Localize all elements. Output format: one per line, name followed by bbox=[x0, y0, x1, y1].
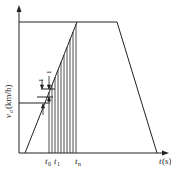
svg-text:0: 0 bbox=[48, 161, 51, 167]
velocity-profile bbox=[19, 22, 157, 153]
y-axis-arrow-icon bbox=[17, 5, 22, 12]
tick-label-t1: t 1 bbox=[54, 156, 60, 167]
svg-text:(s): (s) bbox=[162, 156, 171, 166]
step-marker-label: 1 bbox=[45, 70, 53, 74]
tick-label-tn: t n bbox=[75, 156, 81, 167]
step-marker-label: 1 bbox=[37, 78, 45, 82]
x-axis-label: t (s) bbox=[159, 156, 171, 166]
svg-text:a: a bbox=[8, 110, 14, 113]
tick-label-t0: t 0 bbox=[45, 156, 51, 167]
svg-text:n: n bbox=[78, 161, 81, 167]
svg-text:v: v bbox=[3, 114, 13, 118]
svg-text:1: 1 bbox=[57, 161, 60, 167]
y-axis-label: v a (km/h) bbox=[3, 85, 14, 119]
velocity-time-diagram: 1 1 v a (km/h) t 0 t 1 t n t (s) bbox=[0, 0, 171, 169]
svg-text:(km/h): (km/h) bbox=[3, 85, 13, 110]
x-axis-arrow-icon bbox=[162, 151, 169, 156]
